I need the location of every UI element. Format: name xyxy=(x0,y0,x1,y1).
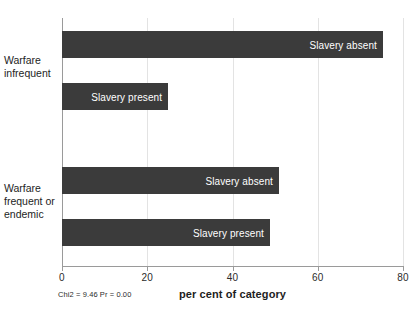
category-label-line: endemic xyxy=(4,208,60,221)
x-tick-label: 20 xyxy=(132,272,162,283)
category-label: Warfarefrequent orendemic xyxy=(4,182,60,221)
category-label-line: Warfare xyxy=(4,182,60,195)
bar-value-label: Slavery absent xyxy=(205,175,273,186)
bar: Slavery absent xyxy=(62,167,279,194)
tick-mark xyxy=(233,266,234,271)
x-tick-label: 0 xyxy=(47,272,77,283)
category-label-line: frequent or xyxy=(4,195,60,208)
tick-mark xyxy=(147,266,148,271)
bar-value-label: Slavery present xyxy=(193,227,264,238)
category-label: Warfareinfrequent xyxy=(4,54,60,80)
bar-chart: 020406080 Slavery absentSlavery presentS… xyxy=(0,0,416,310)
tick-mark xyxy=(318,266,319,271)
x-tick-label: 80 xyxy=(388,272,416,283)
gridline xyxy=(403,18,404,266)
tick-mark xyxy=(62,266,63,271)
tick-mark xyxy=(403,266,404,271)
x-tick-label: 60 xyxy=(303,272,333,283)
bar: Slavery present xyxy=(62,83,168,110)
category-label-line: Warfare xyxy=(4,54,60,67)
x-tick-label: 40 xyxy=(218,272,248,283)
bar-value-label: Slavery present xyxy=(91,91,162,102)
bar-value-label: Slavery absent xyxy=(309,39,377,50)
bar: Slavery absent xyxy=(62,31,383,58)
chi-square-note: Chi2 = 9.46 Pr = 0.00 xyxy=(58,290,131,299)
category-label-line: infrequent xyxy=(4,67,60,80)
bar: Slavery present xyxy=(62,219,270,246)
